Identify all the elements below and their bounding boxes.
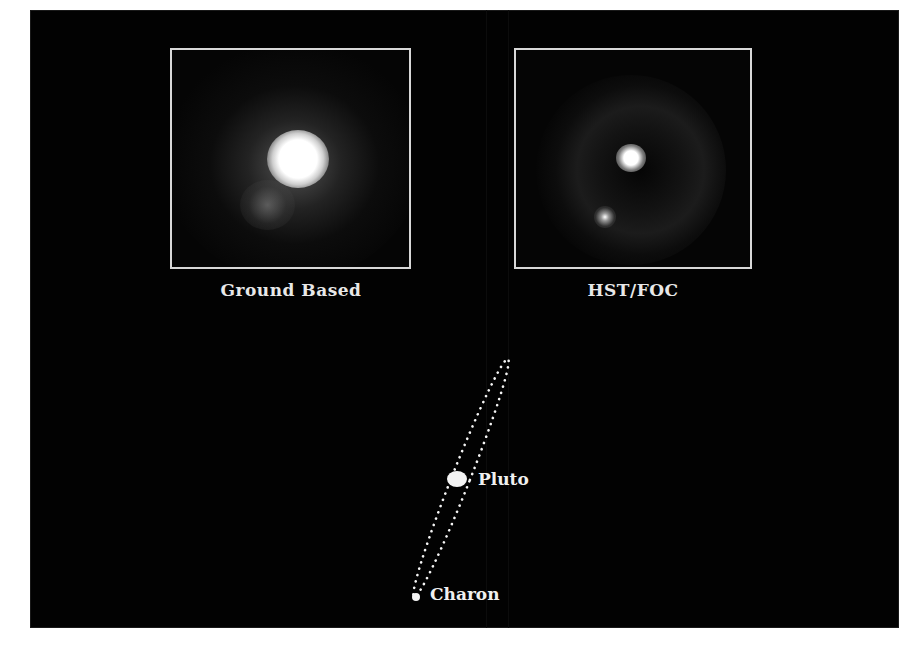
orbit-diagram — [30, 10, 899, 628]
pluto-dot — [447, 471, 467, 487]
label-charon: Charon — [430, 584, 500, 604]
charon-dot — [412, 593, 420, 601]
label-pluto: Pluto — [478, 469, 529, 489]
image-panel: Ground Based HST/FOC Pluto Charon — [30, 10, 899, 628]
